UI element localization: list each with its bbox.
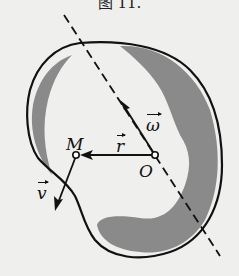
label-O: O <box>139 163 153 180</box>
label-M: M <box>66 136 83 153</box>
v-arrowhead-icon <box>54 196 63 211</box>
label-r-vector: r <box>116 138 124 155</box>
point-O-marker <box>152 152 158 158</box>
label-v-vector: v <box>37 185 47 202</box>
rigid-body-rotation-diagram: 图 11. M O r ω v <box>0 0 239 276</box>
label-omega-vector: ω <box>146 117 160 134</box>
